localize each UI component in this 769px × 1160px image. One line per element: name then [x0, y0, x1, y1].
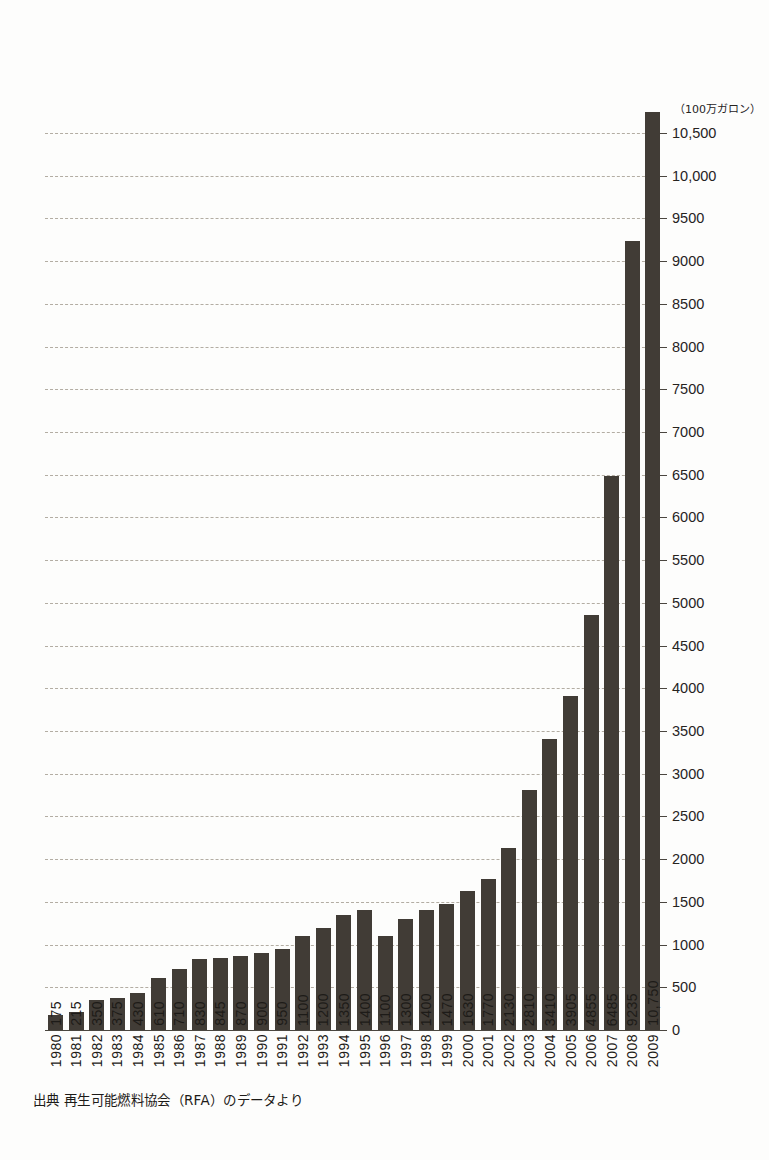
x-axis-label: 1998	[419, 1034, 433, 1067]
x-axis-tick-label-wrap: 1997	[398, 1030, 413, 1086]
y-axis-tick	[660, 347, 667, 348]
bar[interactable]: 900	[254, 953, 269, 1030]
bar[interactable]: 215	[69, 1012, 84, 1030]
bar-group[interactable]: 14001995	[357, 60, 372, 1030]
bar-value-label: 1470	[440, 993, 454, 1026]
x-axis-label: 2005	[564, 1034, 578, 1067]
bar[interactable]: 375	[110, 998, 125, 1030]
bar-group[interactable]: 48552006	[584, 60, 599, 1030]
bar[interactable]: 870	[233, 956, 248, 1030]
y-axis-label: 6500	[672, 467, 704, 482]
x-axis-label: 1989	[234, 1034, 248, 1067]
bar-group[interactable]: 9501991	[275, 60, 290, 1030]
bar-group[interactable]: 16302000	[460, 60, 475, 1030]
bar[interactable]: 950	[275, 949, 290, 1030]
bar-series: 1751980215198135019823751983430198461019…	[45, 60, 660, 1030]
bar[interactable]: 9235	[625, 241, 640, 1030]
x-axis-tick-label-wrap: 1980	[48, 1030, 63, 1086]
y-axis-tick	[660, 389, 667, 390]
bar[interactable]: 1100	[295, 936, 310, 1030]
bar[interactable]: 1350	[336, 915, 351, 1030]
bar-value-label: 610	[152, 1001, 166, 1026]
bar-group[interactable]: 14701999	[439, 60, 454, 1030]
bar-group[interactable]: 3501982	[89, 60, 104, 1030]
bar-group[interactable]: 6101985	[151, 60, 166, 1030]
x-axis-tick-label-wrap: 1994	[336, 1030, 351, 1086]
bar[interactable]: 1200	[316, 928, 331, 1031]
bar-group[interactable]: 34102004	[542, 60, 557, 1030]
bar[interactable]: 830	[192, 959, 207, 1030]
bar-value-label: 950	[275, 1001, 289, 1026]
bar-group[interactable]: 21302002	[501, 60, 516, 1030]
bar-group[interactable]: 10,7502009	[645, 60, 660, 1030]
bar-group[interactable]: 64852007	[604, 60, 619, 1030]
bar-group[interactable]: 9001990	[254, 60, 269, 1030]
bar[interactable]: 1300	[398, 919, 413, 1030]
bar-group[interactable]: 8451988	[213, 60, 228, 1030]
bar-group[interactable]: 7101986	[172, 60, 187, 1030]
x-axis-label: 1999	[440, 1034, 454, 1067]
x-axis-label: 2003	[522, 1034, 536, 1067]
bar-group[interactable]: 1751980	[48, 60, 63, 1030]
bar-value-label: 10,750	[646, 980, 660, 1026]
bar[interactable]: 1770	[481, 879, 496, 1030]
bar[interactable]: 430	[130, 993, 145, 1030]
bar-group[interactable]: 2151981	[69, 60, 84, 1030]
bar[interactable]: 610	[151, 978, 166, 1030]
y-axis-tick	[660, 176, 667, 177]
x-axis-tick-label-wrap: 1988	[213, 1030, 228, 1086]
bar-group[interactable]: 39052005	[563, 60, 578, 1030]
y-axis-tick	[660, 646, 667, 647]
bar-value-label: 3410	[543, 993, 557, 1026]
bar[interactable]: 845	[213, 958, 228, 1030]
bar[interactable]: 3905	[563, 696, 578, 1030]
x-axis-label: 1995	[358, 1034, 372, 1067]
bar-group[interactable]: 14001998	[419, 60, 434, 1030]
bar[interactable]: 1400	[419, 910, 434, 1030]
y-axis-label: 10,000	[672, 168, 716, 183]
bar[interactable]: 1400	[357, 910, 372, 1030]
bar-group[interactable]: 92352008	[625, 60, 640, 1030]
x-axis-tick-label-wrap: 1998	[419, 1030, 434, 1086]
x-axis-tick-label-wrap: 1992	[295, 1030, 310, 1086]
bar-value-label: 830	[193, 1001, 207, 1026]
bar-value-label: 6485	[605, 993, 619, 1026]
bar[interactable]: 10,750	[645, 112, 660, 1030]
x-axis-tick-label-wrap: 1990	[254, 1030, 269, 1086]
bar[interactable]: 710	[172, 969, 187, 1030]
y-axis-label: 5500	[672, 553, 704, 568]
y-axis-label: 3000	[672, 766, 704, 781]
bar[interactable]: 175	[48, 1015, 63, 1030]
bar-group[interactable]: 11001996	[378, 60, 393, 1030]
bar-group[interactable]: 13501994	[336, 60, 351, 1030]
x-axis-label: 1987	[193, 1034, 207, 1067]
bar-group[interactable]: 17702001	[481, 60, 496, 1030]
bar-group[interactable]: 4301984	[130, 60, 145, 1030]
bar[interactable]: 350	[89, 1000, 104, 1030]
bar-group[interactable]: 8701989	[233, 60, 248, 1030]
bar-group[interactable]: 8301987	[192, 60, 207, 1030]
bar[interactable]: 2810	[522, 790, 537, 1030]
bar[interactable]: 2130	[501, 848, 516, 1030]
bar-value-label: 375	[110, 1001, 124, 1026]
y-axis-tick	[660, 987, 667, 988]
bar-value-label: 710	[172, 1001, 186, 1026]
bar[interactable]: 4855	[584, 615, 599, 1030]
x-axis-label: 1982	[90, 1034, 104, 1067]
bar-value-label: 1100	[296, 994, 310, 1026]
bar-group[interactable]: 11001992	[295, 60, 310, 1030]
bar-group[interactable]: 28102003	[522, 60, 537, 1030]
x-axis-label: 1985	[152, 1034, 166, 1067]
bar-group[interactable]: 13001997	[398, 60, 413, 1030]
bar[interactable]: 1470	[439, 904, 454, 1030]
bar-group[interactable]: 12001993	[316, 60, 331, 1030]
bar-value-label: 9235	[625, 993, 639, 1026]
bar-group[interactable]: 3751983	[110, 60, 125, 1030]
bar[interactable]: 1630	[460, 891, 475, 1030]
x-axis-label: 2008	[625, 1034, 639, 1067]
bar[interactable]: 3410	[542, 739, 557, 1030]
bar[interactable]: 1100	[378, 936, 393, 1030]
x-axis-label: 1981	[69, 1034, 83, 1067]
x-axis-label: 1994	[337, 1034, 351, 1067]
bar[interactable]: 6485	[604, 476, 619, 1030]
